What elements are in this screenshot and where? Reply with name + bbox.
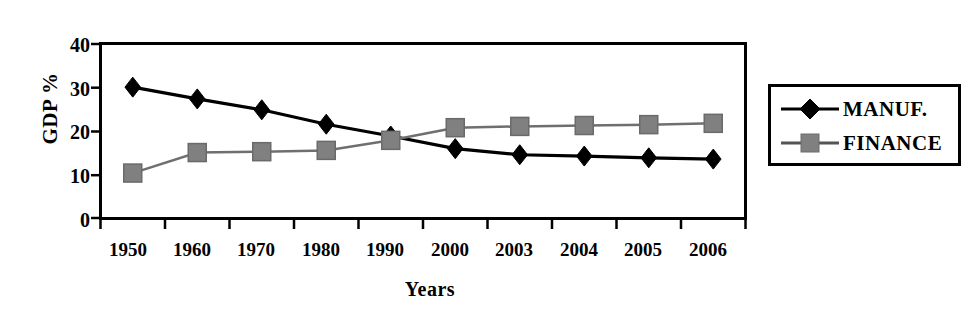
data-point-square	[124, 164, 142, 182]
x-tick-label-1980: 1980	[289, 240, 353, 259]
x-axis-title: Years	[350, 278, 510, 301]
x-tick-label-2005: 2005	[611, 240, 675, 259]
data-point-square	[446, 119, 464, 137]
legend-swatch-diamond-icon	[779, 96, 841, 122]
legend-item-manuf: MANUF.	[779, 94, 927, 124]
chart-legend: MANUF. FINANCE	[768, 84, 961, 166]
data-point-square	[382, 131, 400, 149]
chart-figure: GDP % 40 30 20 10 0 1950 1960 1970 1980 …	[0, 0, 973, 311]
data-point-square	[640, 116, 658, 134]
x-tick-label-2000: 2000	[418, 240, 482, 259]
x-tick-label-2004: 2004	[547, 240, 611, 259]
x-tick-label-1950: 1950	[96, 240, 160, 259]
data-point-square	[704, 114, 722, 132]
x-tick-label-1990: 1990	[353, 240, 417, 259]
legend-item-finance: FINANCE	[779, 128, 942, 158]
data-point-square	[317, 141, 335, 159]
data-point-square	[253, 143, 271, 161]
x-tick-label-2003: 2003	[482, 240, 546, 259]
data-point-square	[188, 144, 206, 162]
x-tick-label-1960: 1960	[160, 240, 224, 259]
legend-label-manuf: MANUF.	[843, 97, 927, 122]
data-point-square	[511, 117, 529, 135]
data-point-square	[575, 117, 593, 135]
x-tick-label-2006: 2006	[676, 240, 740, 259]
legend-label-finance: FINANCE	[843, 131, 942, 156]
x-tick-label-1970: 1970	[224, 240, 288, 259]
legend-swatch-square-icon	[779, 130, 841, 156]
